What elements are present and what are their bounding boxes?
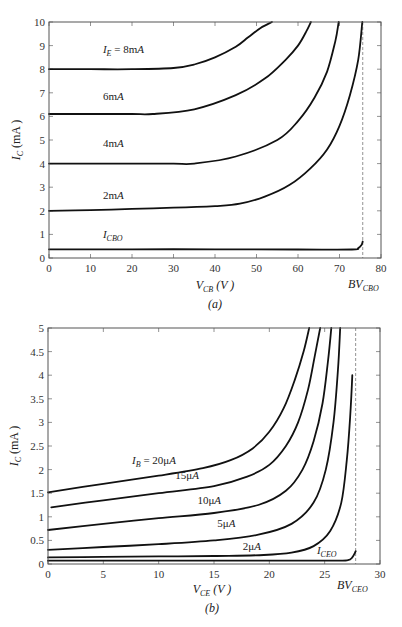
- y-axis-title: IC (mA ): [9, 120, 25, 162]
- transistor-characteristics-figure: 01020304050607080012345678910 IE = 8mA6m…: [0, 0, 402, 627]
- y-tick-label: 2.5: [30, 440, 44, 452]
- y-tick-label: 1: [40, 228, 46, 240]
- y-tick-label: 3: [40, 181, 46, 193]
- curve-2-a: [48, 375, 352, 557]
- curve-label: 10μA: [197, 494, 221, 506]
- y-tick-label: 3: [39, 416, 45, 428]
- x-tick-label: 15: [209, 568, 221, 580]
- x-tick-label: 5: [101, 568, 107, 580]
- curve-label: 4mA: [103, 137, 124, 149]
- data-curves: [48, 328, 356, 561]
- breakdown-voltage-label: BVCEO: [337, 578, 368, 594]
- curve-labels: IB = 20μA15μA10μA5μA2μAICEO: [131, 454, 337, 559]
- curve-label: IB = 20μA: [131, 454, 176, 469]
- curve-5-a: [48, 328, 340, 550]
- y-tick-label: 4: [40, 158, 46, 170]
- x-axis-title: VCE (V ): [193, 582, 232, 598]
- y-axis-title: IC (mA ): [7, 426, 23, 468]
- axis-tick-labels: 01020304050607080012345678910: [34, 16, 387, 274]
- y-tick-label: 0: [39, 558, 45, 570]
- y-tick-label: 10: [34, 16, 46, 28]
- x-tick-label: 20: [127, 262, 139, 274]
- y-tick-label: 3.5: [30, 393, 44, 405]
- y-tick-label: 1: [39, 511, 45, 523]
- curve-i-cbo: [49, 242, 363, 250]
- x-tick-label: 30: [375, 568, 387, 580]
- curve-label: 5μA: [217, 517, 235, 529]
- curve-2ma: [49, 22, 362, 211]
- common-emitter-output-characteristics-chart: 05101520253000.511.522.533.544.55 IB = 2…: [7, 322, 386, 615]
- figure-caption-b: (b): [205, 601, 219, 615]
- y-tick-label: 1.5: [30, 487, 44, 499]
- x-tick-label: 70: [334, 262, 346, 274]
- y-tick-label: 9: [40, 40, 46, 52]
- breakdown-voltage-label: BVCBO: [348, 277, 379, 293]
- y-tick-label: 0: [40, 252, 46, 264]
- curve-label: 15μA: [175, 469, 199, 481]
- curve-i-e-8ma: [49, 22, 272, 69]
- x-axis-title: VCB (V ): [196, 278, 235, 294]
- curve-label: 2μA: [243, 540, 261, 552]
- x-tick-label: 80: [376, 262, 388, 274]
- curve-label: IE = 8mA: [102, 43, 144, 58]
- y-tick-label: 5: [39, 322, 45, 334]
- x-tick-label: 50: [251, 262, 263, 274]
- y-tick-label: 4: [39, 369, 45, 381]
- x-tick-label: 40: [210, 262, 222, 274]
- figure-caption-a: (a): [208, 297, 222, 311]
- data-curves: [49, 22, 363, 250]
- curve-label: 6mA: [103, 90, 124, 102]
- y-tick-label: 8: [40, 63, 46, 75]
- curve-label: ICEO: [316, 544, 337, 559]
- curve-10-a: [48, 328, 331, 530]
- x-tick-label: 60: [293, 262, 305, 274]
- y-tick-label: 0.5: [30, 534, 44, 546]
- x-tick-label: 20: [264, 568, 276, 580]
- x-tick-label: 10: [153, 568, 165, 580]
- x-tick-label: 10: [85, 262, 97, 274]
- x-tick-label: 0: [46, 262, 52, 274]
- curve-label: ICBO: [102, 228, 123, 243]
- y-tick-label: 4.5: [30, 346, 44, 358]
- x-tick-label: 30: [168, 262, 180, 274]
- curve-labels: IE = 8mA6mA4mA2mAICBO: [102, 43, 144, 243]
- curve-i-b-20-a: [48, 328, 309, 492]
- y-tick-label: 2: [40, 205, 46, 217]
- curve-4ma: [49, 22, 339, 164]
- y-tick-label: 7: [40, 87, 46, 99]
- y-tick-label: 5: [40, 134, 46, 146]
- curve-label: 2mA: [103, 189, 124, 201]
- y-tick-label: 2: [39, 464, 45, 476]
- common-base-output-characteristics-chart: 01020304050607080012345678910 IE = 8mA6m…: [9, 16, 387, 311]
- x-tick-label: 0: [45, 568, 51, 580]
- y-tick-label: 6: [40, 110, 46, 122]
- x-tick-label: 25: [319, 568, 331, 580]
